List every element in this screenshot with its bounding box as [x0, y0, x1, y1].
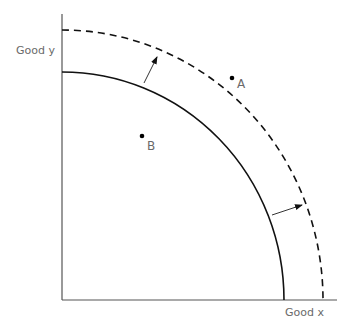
point-a-label: A — [237, 77, 246, 91]
x-axis-label: Good x — [285, 306, 324, 319]
shifted-ppf-curve — [62, 30, 323, 300]
outward-shift-arrow-right — [272, 205, 302, 215]
outward-shift-arrow-top — [144, 57, 157, 83]
point-a-marker — [230, 76, 235, 81]
original-ppf-curve — [62, 72, 284, 300]
point-b-marker — [140, 134, 145, 139]
y-axis-label: Good y — [16, 44, 55, 57]
ppf-diagram: A B Good y Good x — [0, 0, 353, 331]
point-b-label: B — [147, 139, 155, 153]
